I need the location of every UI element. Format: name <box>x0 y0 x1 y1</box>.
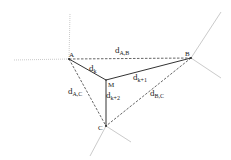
spoke-b-down <box>191 58 221 78</box>
vertices <box>68 57 192 127</box>
vertex-c <box>105 125 107 127</box>
label-d-bc: dB,C <box>150 88 164 99</box>
label-d-k2: dk+2 <box>106 90 120 101</box>
label-d-k1: dk+1 <box>133 72 147 83</box>
label-b: B <box>185 50 190 58</box>
edge-ab <box>69 58 191 59</box>
outer-spokes <box>14 12 221 156</box>
edge-bm <box>106 58 191 80</box>
vertex-b <box>190 57 192 59</box>
dashed-triangle <box>69 58 191 126</box>
label-d-k: dk <box>89 63 97 74</box>
label-a: A <box>69 51 74 59</box>
vertex-m <box>105 79 107 81</box>
edge-am <box>69 59 106 80</box>
label-d-ab: dA,B <box>115 45 129 56</box>
label-m: M <box>108 81 115 89</box>
label-d-ac: dA,C <box>68 86 82 97</box>
edge-bc <box>106 58 191 126</box>
spoke-b-up <box>191 12 221 58</box>
spoke-c-right <box>106 126 131 142</box>
label-c: C <box>98 124 103 132</box>
spoke-a-left <box>14 59 69 60</box>
triangle-diagram: A B C M dA,B dk dk+1 dk+2 dA,C dB,C <box>0 0 231 160</box>
